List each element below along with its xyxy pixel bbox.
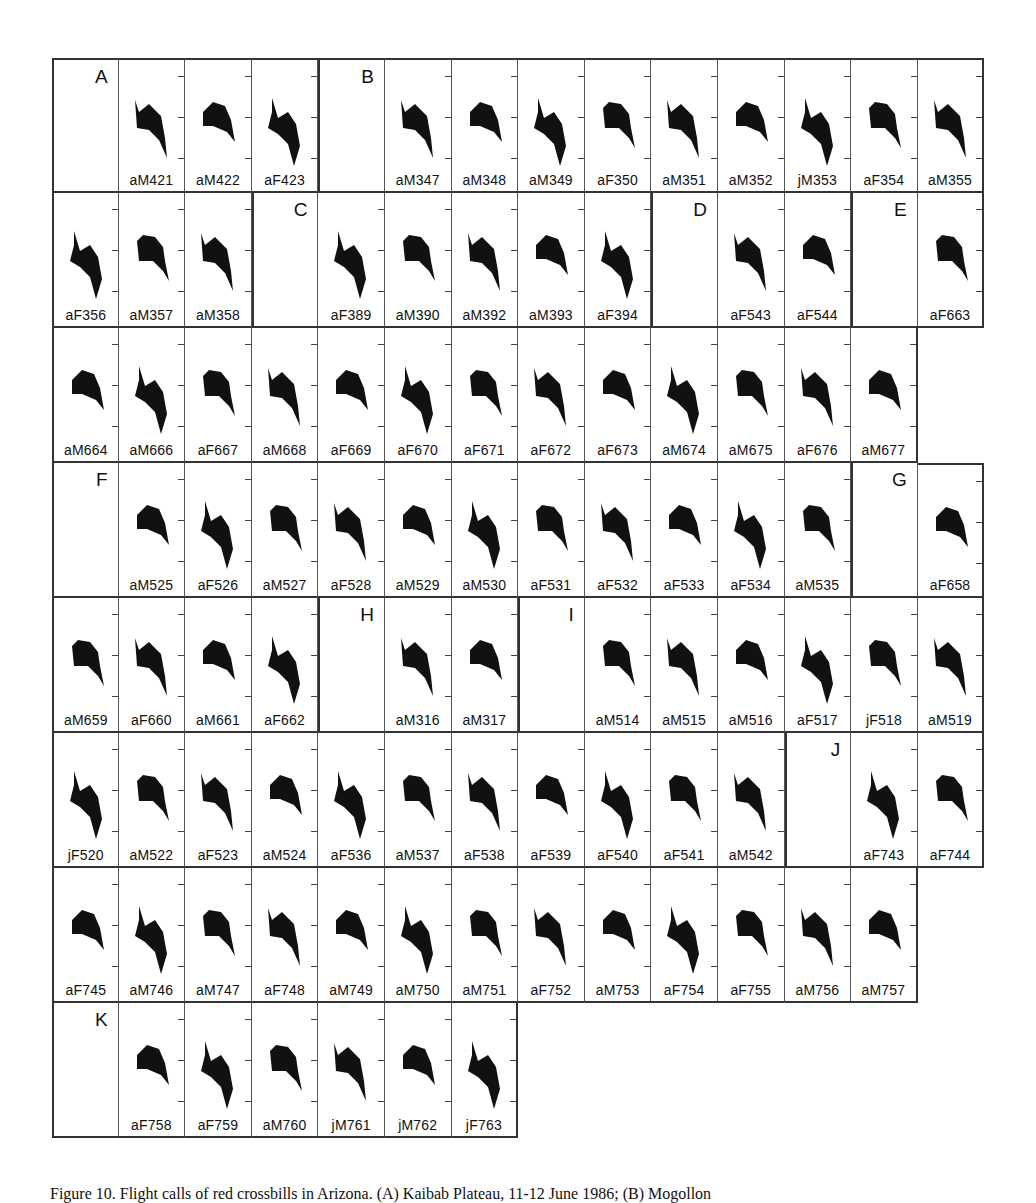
spectrogram-shape xyxy=(68,636,106,704)
specimen-label: aM674 xyxy=(651,442,717,458)
figure-row: KaF758aF759aM760jM761jM762jF763 xyxy=(52,1003,984,1138)
spectrogram-shape xyxy=(599,501,637,569)
axis-tick xyxy=(112,925,118,926)
axis-tick xyxy=(911,76,917,77)
axis-tick xyxy=(644,520,650,521)
axis-tick xyxy=(445,158,451,159)
spectrogram-cell: aF517 xyxy=(785,598,852,733)
spectrogram-shape xyxy=(599,771,637,839)
panel-letter: C xyxy=(294,199,308,221)
spectrogram-shape xyxy=(665,501,703,569)
axis-tick xyxy=(245,1019,251,1020)
spectrogram-shape xyxy=(68,771,106,839)
spectrogram-shape xyxy=(199,636,237,704)
spectrogram-shape xyxy=(466,636,504,704)
specimen-label: aF673 xyxy=(585,442,651,458)
panel-letter: D xyxy=(693,199,707,221)
axis-tick xyxy=(112,884,118,885)
axis-tick xyxy=(976,696,982,697)
axis-tick xyxy=(844,291,850,292)
axis-tick xyxy=(778,749,784,750)
axis-tick xyxy=(178,1101,184,1102)
specimen-label: aF667 xyxy=(185,442,251,458)
specimen-label: aF531 xyxy=(518,577,584,593)
axis-tick xyxy=(578,561,584,562)
figure-row: FaM525aF526aM527aF528aM529aM530aF531aF53… xyxy=(52,463,984,598)
spectrogram-shape xyxy=(133,1041,171,1109)
axis-tick xyxy=(711,696,717,697)
specimen-label: aM675 xyxy=(718,442,784,458)
axis-tick xyxy=(378,749,384,750)
specimen-label: aM348 xyxy=(452,172,518,188)
axis-tick xyxy=(112,614,118,615)
spectrogram-cell: aF533 xyxy=(651,463,718,598)
spectrogram-cell: aM664 xyxy=(52,328,119,463)
axis-tick xyxy=(445,76,451,77)
axis-tick xyxy=(378,209,384,210)
axis-tick xyxy=(511,561,517,562)
spectrogram-shape xyxy=(799,98,837,166)
axis-tick xyxy=(511,884,517,885)
spectrogram-shape xyxy=(133,636,171,704)
specimen-label: aM753 xyxy=(585,982,651,998)
axis-tick xyxy=(311,520,317,521)
specimen-label: aM666 xyxy=(119,442,185,458)
axis-tick xyxy=(378,831,384,832)
axis-tick xyxy=(644,158,650,159)
spectrogram-cell: aF350 xyxy=(585,58,652,193)
axis-tick xyxy=(112,831,118,832)
spectrogram-cell: aF759 xyxy=(185,1003,252,1138)
axis-tick xyxy=(378,561,384,562)
axis-tick xyxy=(511,117,517,118)
axis-tick xyxy=(510,1101,516,1102)
specimen-label: aF660 xyxy=(119,712,185,728)
specimen-label: aF541 xyxy=(651,847,717,863)
panel-label-cell: K xyxy=(52,1003,119,1138)
axis-tick xyxy=(578,344,584,345)
axis-tick xyxy=(178,831,184,832)
spectrogram-shape xyxy=(665,906,703,974)
axis-tick xyxy=(644,925,650,926)
spectrogram-cell: aM749 xyxy=(318,868,385,1003)
spectrogram-cell: aF744 xyxy=(918,733,985,868)
spectrogram-cell: aM392 xyxy=(452,193,519,328)
specimen-label: aF759 xyxy=(185,1117,251,1133)
spectrogram-cell: aF538 xyxy=(452,733,519,868)
axis-tick xyxy=(911,158,917,159)
axis-tick xyxy=(311,426,317,427)
axis-tick xyxy=(578,790,584,791)
spectrogram-shape xyxy=(466,501,504,569)
axis-tick xyxy=(911,831,917,832)
panel-letter: J xyxy=(831,739,841,761)
axis-tick xyxy=(711,614,717,615)
axis-tick xyxy=(112,344,118,345)
specimen-label: aM750 xyxy=(385,982,451,998)
spectrogram-grid-figure: AaM421aM422aF423BaM347aM348aM349aF350aM3… xyxy=(52,58,984,1138)
spectrogram-cell: aM316 xyxy=(385,598,452,733)
spectrogram-cell: aM355 xyxy=(918,58,985,193)
spectrogram-cell: aF539 xyxy=(518,733,585,868)
axis-tick xyxy=(245,209,251,210)
spectrogram-shape xyxy=(732,98,770,166)
specimen-label: aM746 xyxy=(119,982,185,998)
panel-letter: K xyxy=(95,1009,108,1031)
spectrogram-shape xyxy=(932,98,970,166)
spectrogram-shape xyxy=(332,231,370,299)
specimen-label: aM661 xyxy=(185,712,251,728)
spectrogram-shape xyxy=(532,231,570,299)
axis-tick xyxy=(778,479,784,480)
spectrogram-shape xyxy=(732,366,770,434)
specimen-label: aF758 xyxy=(119,1117,185,1133)
spectrogram-shape xyxy=(532,771,570,839)
spectrogram-shape xyxy=(266,98,304,166)
spectrogram-shape xyxy=(332,906,370,974)
figure-row: aF745aM746aM747aF748aM749aM750aM751aF752… xyxy=(52,868,984,1003)
axis-tick xyxy=(778,966,784,967)
spectrogram-cell: aF669 xyxy=(318,328,385,463)
specimen-label: jM762 xyxy=(385,1117,451,1133)
axis-tick xyxy=(178,655,184,656)
axis-tick xyxy=(578,426,584,427)
axis-tick xyxy=(311,696,317,697)
specimen-label: aF748 xyxy=(252,982,318,998)
spectrogram-shape xyxy=(932,771,970,839)
